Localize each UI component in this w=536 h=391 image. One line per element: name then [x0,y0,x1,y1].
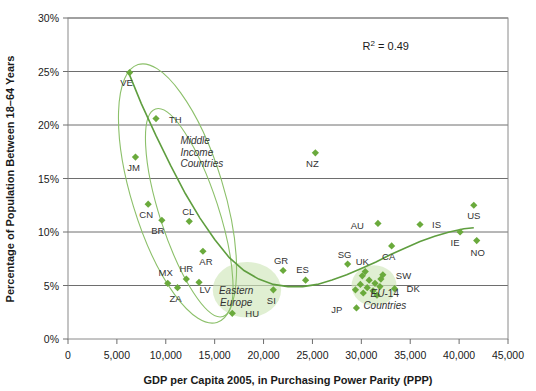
x-tick-label-45,000: 45,000 [492,349,524,361]
point-label-HR: HR [179,263,193,274]
point-label-HU: HU [245,308,259,319]
y-axis-title: Percentage of Population Between 18–64 Y… [4,56,16,303]
point-label-US: US [467,210,480,221]
point-label-VE: VE [120,77,133,88]
point-label-TH: TH [169,114,182,125]
point-label-AR: AR [199,256,212,267]
point-label-BR: BR [151,225,164,236]
x-axis-title: GDP per Capita 2005, in Purchasing Power… [144,374,433,386]
point-labels-layer: VETHJMNZCNBRCLUSISAUARCAIENOSGGRUKSWESMX… [120,77,485,320]
data-point-JP[interactable] [353,304,360,311]
data-point-VE[interactable] [126,69,133,76]
data-point-JM[interactable] [132,154,139,161]
r-squared-annotation: R2 = 0.49 [363,39,409,53]
annotation-eastern-europe: EasternEurope [219,285,254,308]
point-label-NZ: NZ [306,158,319,169]
polynomial-trendline [129,73,474,287]
y-tick-label-5%: 5% [44,280,59,292]
y-tick-label-0%: 0% [44,333,59,345]
data-point-TH[interactable] [152,115,159,122]
data-point-SG[interactable] [344,261,351,268]
chart-canvas: VETHJMNZCNBRCLUSISAUARCAIENOSGGRUKSWESMX… [0,0,536,391]
y-tick-label-25%: 25% [38,66,59,78]
point-label-GR: GR [274,255,288,266]
annotation-middle-income-countries: MiddleIncomeCountries [180,135,223,169]
point-label-UK: UK [356,256,370,267]
point-label-CL: CL [182,206,194,217]
point-label-MX: MX [159,267,174,278]
point-label-LV: LV [200,284,212,295]
data-point-NZ[interactable] [312,149,319,156]
y-tick-label-10%: 10% [38,226,59,238]
x-tick-label-5,000: 5,000 [104,349,130,361]
point-label-JP: JP [331,304,342,315]
x-tick-label-20,000: 20,000 [247,349,279,361]
point-label-DK: DK [407,283,421,294]
data-point-IS[interactable] [416,221,423,228]
data-point-ES[interactable] [302,277,309,284]
data-points-layer [126,69,480,317]
scatter-chart: VETHJMNZCNBRCLUSISAUARCAIENOSGGRUKSWESMX… [0,0,536,391]
point-label-CA: CA [382,251,396,262]
trendline-layer [129,73,474,287]
y-tick-label-20%: 20% [38,119,59,131]
x-tick-label-10,000: 10,000 [150,349,182,361]
point-label-ZA: ZA [169,293,182,304]
x-tick-label-15,000: 15,000 [199,349,231,361]
point-label-NO: NO [471,247,485,258]
data-point-AR[interactable] [199,248,206,255]
data-point-CL[interactable] [186,218,193,225]
data-point-NO[interactable] [473,237,480,244]
point-label-CN: CN [139,209,153,220]
annotation-eu-14-countries: EU-14Countries [363,288,406,311]
y-tick-label-30%: 30% [38,12,59,24]
y-tick-label-15%: 15% [38,173,59,185]
point-label-SI: SI [267,295,276,306]
point-label-JM: JM [127,162,140,173]
point-label-ES: ES [296,264,309,275]
point-label-AU: AU [351,220,364,231]
axis-ticks-layer: 05,00010,00015,00020,00025,00030,00035,0… [38,12,524,361]
x-tick-label-30,000: 30,000 [345,349,377,361]
x-tick-label-40,000: 40,000 [443,349,475,361]
point-label-SG: SG [338,249,352,260]
data-point-US[interactable] [470,202,477,209]
point-label-SW: SW [396,270,411,281]
data-point-BR[interactable] [158,217,165,224]
data-point-AU[interactable] [374,220,381,227]
x-tick-label-35,000: 35,000 [394,349,426,361]
point-label-IE: IE [451,237,460,248]
data-point-CN[interactable] [145,201,152,208]
point-label-IS: IS [432,219,441,230]
data-point-GR[interactable] [280,267,287,274]
x-tick-label-25,000: 25,000 [296,349,328,361]
x-tick-label-0: 0 [65,349,71,361]
data-point-CA[interactable] [388,242,395,249]
gridlines-layer [68,18,508,286]
